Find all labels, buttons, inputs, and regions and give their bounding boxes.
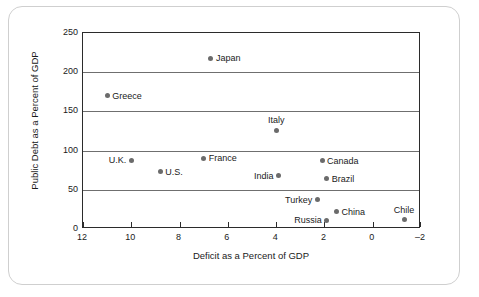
- data-point[interactable]: [402, 217, 407, 222]
- x-axis-tick-label: 6: [212, 232, 242, 242]
- data-point-label: U.S.: [165, 168, 183, 177]
- data-point[interactable]: [105, 93, 110, 98]
- x-axis-tick-label: 10: [115, 232, 145, 242]
- plot-area: JapanGreeceItalyU.K.FranceCanadaU.S.Indi…: [82, 32, 420, 228]
- x-axis-tick-label: –2: [405, 232, 435, 242]
- data-point-label: India: [254, 172, 279, 181]
- data-point-label: U.K.: [109, 156, 132, 165]
- x-axis-tick-mark: [276, 222, 277, 227]
- x-axis-tick-mark: [83, 222, 84, 227]
- data-point-label: Greece: [112, 92, 142, 101]
- y-axis-tick-label: 100: [44, 146, 78, 155]
- x-axis-tick-label: 8: [164, 232, 194, 242]
- gridline: [83, 111, 419, 112]
- data-point-label: Brazil: [332, 175, 355, 184]
- data-point[interactable]: [208, 56, 213, 61]
- x-axis-tick-label: 12: [67, 232, 97, 242]
- data-point-label: Russia: [294, 216, 327, 225]
- x-axis-tick-mark: [131, 222, 132, 227]
- data-point-label: Chile: [394, 206, 415, 215]
- y-axis-tick-label: 250: [44, 28, 78, 37]
- data-point-label: Japan: [216, 54, 241, 63]
- data-point[interactable]: [320, 158, 325, 163]
- data-point[interactable]: [334, 209, 339, 214]
- x-axis-tick-mark: [228, 222, 229, 227]
- y-axis-title: Public Debt as a Percent of GDP: [29, 21, 40, 221]
- x-axis-title: Deficit as a Percent of GDP: [82, 250, 420, 261]
- x-axis-tick-label: 0: [357, 232, 387, 242]
- x-axis-tick-mark: [180, 222, 181, 227]
- data-point-label: Italy: [268, 116, 285, 125]
- gridline: [83, 151, 419, 152]
- y-axis-tick-label: 150: [44, 106, 78, 115]
- scatter-chart: Public Debt as a Percent of GDP 25020015…: [0, 0, 479, 297]
- data-point[interactable]: [324, 176, 329, 181]
- gridline: [83, 190, 419, 191]
- data-point-label: Canada: [327, 157, 359, 166]
- gridline: [83, 72, 419, 73]
- data-point[interactable]: [274, 128, 279, 133]
- y-axis-tick-labels: 250200150100500: [42, 32, 78, 228]
- data-point[interactable]: [201, 156, 206, 161]
- data-point-label: Turkey: [285, 196, 317, 205]
- x-axis-tick-mark: [373, 222, 374, 227]
- data-point-label: China: [342, 208, 366, 217]
- x-axis-tick-label: 2: [308, 232, 338, 242]
- data-point[interactable]: [158, 169, 163, 174]
- x-axis-tick-label: 4: [260, 232, 290, 242]
- y-axis-tick-label: 50: [44, 185, 78, 194]
- data-point-label: France: [209, 154, 237, 163]
- y-axis-tick-label: 200: [44, 67, 78, 76]
- x-axis-tick-mark: [420, 222, 421, 227]
